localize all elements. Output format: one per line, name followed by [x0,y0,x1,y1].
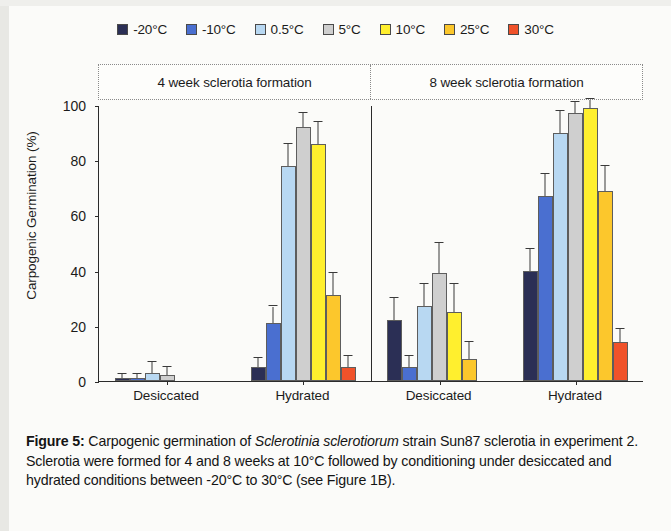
y-tick-mark [95,106,99,107]
bar [311,144,326,381]
error-bar-cap [390,297,399,298]
legend-label: 25°C [460,22,489,37]
error-bar-cap [465,341,474,342]
error-bar [409,356,410,367]
bar-slot [538,106,553,381]
bar [447,312,462,381]
bar-groups [99,106,643,381]
legend-item: -10°C [186,22,236,37]
bar-group [235,106,371,381]
bar [281,166,296,381]
error-bar-cap [148,361,157,362]
bar-slot [477,106,492,381]
bar-slot [432,106,447,381]
legend-swatch-icon [186,24,197,35]
bar [402,367,417,381]
bar-slot [553,106,568,381]
bar-group [507,106,643,381]
y-tick-label: 60 [70,208,86,224]
chart-legend: -20°C-10°C0.5°C5°C10°C25°C30°C [0,22,671,37]
error-bar-cap [344,355,353,356]
y-axis-title: Carpogenic Germination (%) [24,101,39,331]
bar [417,306,432,381]
bar [462,359,477,381]
error-bar [620,329,621,343]
bar-slot [311,106,326,381]
legend-label: 5°C [339,22,361,37]
bar [145,373,160,381]
error-bar-cap [269,305,278,306]
y-axis-tick-labels: 020406080100 [40,58,92,388]
bar [598,191,613,381]
bar-slot [251,106,266,381]
caption-text-1: Carpogenic germination of [85,433,255,449]
x-tick-label: Desiccated [98,388,234,403]
legend-item: 30°C [508,22,553,37]
bar-group [371,106,507,381]
error-bar [394,298,395,320]
bar-slot [115,106,130,381]
error-bar [137,374,138,378]
x-tick-label: Hydrated [234,388,370,403]
bar [432,273,447,381]
y-tick-mark [95,327,99,328]
y-tick-label: 100 [63,98,86,114]
error-bar-cap [118,373,127,374]
error-bar [303,113,304,127]
bar [523,271,538,381]
bar [387,320,402,381]
legend-label: 10°C [396,22,425,37]
figure-caption: Figure 5: Carpogenic germination of Scle… [26,432,648,491]
y-tick-label: 40 [70,264,86,280]
error-bar [560,111,561,133]
legend-label: 30°C [524,22,553,37]
y-tick-mark [95,272,99,273]
y-tick-mark [95,216,99,217]
bar-slot [613,106,628,381]
error-bar-cap [405,355,414,356]
error-bar-cap [571,101,580,102]
page-top-margin [0,0,671,6]
bar [326,295,341,381]
error-bar-cap [586,98,595,99]
figure-container: -20°C-10°C0.5°C5°C10°C25°C30°C Carpogeni… [0,0,671,531]
bar [583,108,598,381]
plot-area: Carpogenic Germination (%) 020406080100 … [0,58,671,413]
error-bar-cap [254,357,263,358]
legend-swatch-icon [323,24,334,35]
legend-item: 5°C [323,22,361,37]
error-bar-cap [284,143,293,144]
bar [553,133,568,381]
error-bar [545,174,546,196]
error-bar [530,249,531,271]
legend-label: 0.5°C [271,22,304,37]
error-bar [469,342,470,359]
bar [341,367,356,381]
bar-slot [266,106,281,381]
bar-slot [130,106,145,381]
legend-swatch-icon [444,24,455,35]
bar [115,378,130,381]
bar-slot [598,106,613,381]
bar-slot [523,106,538,381]
error-bar-cap [450,283,459,284]
legend-swatch-icon [117,24,128,35]
error-bar [167,367,168,375]
error-bar-cap [435,242,444,243]
error-bar-cap [163,366,172,367]
bar-slot [341,106,356,381]
error-bar [333,273,334,295]
bar-slot [205,106,220,381]
bar [251,367,266,381]
error-bar-cap [314,121,323,122]
bar-slot [160,106,175,381]
x-tick-label: Desiccated [371,388,507,403]
panel-headers: 4 week sclerotia formation8 week sclerot… [98,64,643,100]
error-bar [424,284,425,306]
bar-slot [417,106,432,381]
figure-number: Figure 5: [26,433,85,449]
bar [130,378,145,381]
panel-header: 8 week sclerotia formation [370,65,642,99]
legend-item: 25°C [444,22,489,37]
bar-slot [296,106,311,381]
